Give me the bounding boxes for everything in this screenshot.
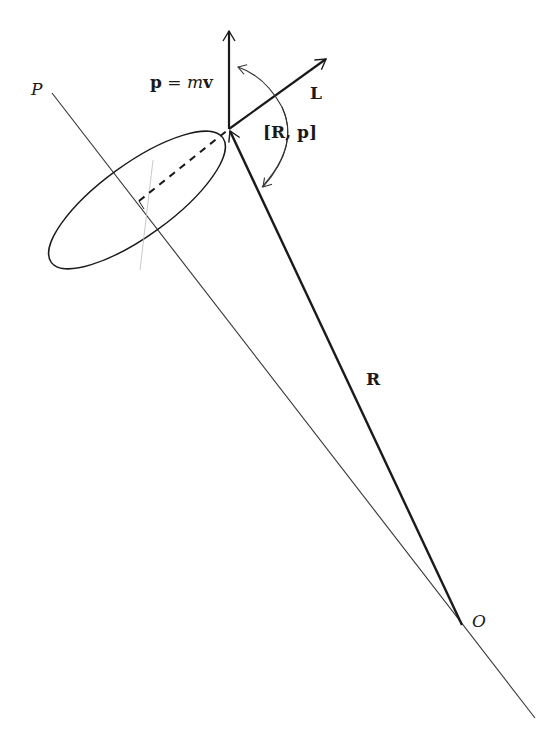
faint-trace-line <box>140 160 153 270</box>
label-commutator: [R, p] <box>263 122 317 142</box>
rotation-arc-start <box>263 107 288 187</box>
angular-momentum-diagram: p = mv L [R, p] R P O <box>0 0 560 744</box>
orbit-ellipse <box>30 109 244 292</box>
label-P: P <box>30 79 43 99</box>
label-R: R <box>366 369 381 389</box>
vector-R <box>230 131 462 625</box>
label-L: L <box>310 83 322 103</box>
label-O: O <box>472 611 486 631</box>
label-momentum: p = mv <box>150 72 214 92</box>
dashed-radius-tick <box>139 201 144 209</box>
